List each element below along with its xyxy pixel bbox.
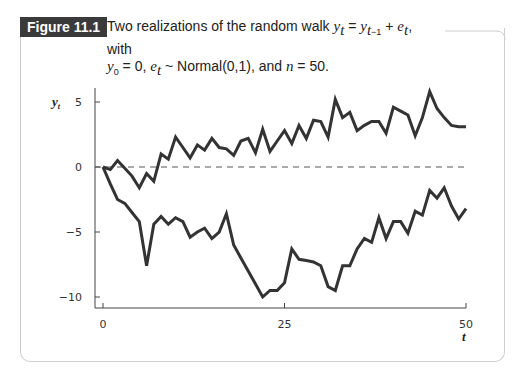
line-chart: −10−50502550 yt t <box>0 0 527 384</box>
series-upper-line <box>103 92 466 188</box>
series-lower-line <box>103 167 466 297</box>
y-tick-label: 0 <box>75 161 82 174</box>
y-tick-label: 5 <box>75 96 82 109</box>
frame-corner <box>496 31 505 40</box>
x-tick-label: 0 <box>100 318 107 331</box>
x-axis-title: t <box>462 329 466 344</box>
x-tick-label: 25 <box>278 318 292 331</box>
y-tick-label: −5 <box>66 226 82 239</box>
y-tick-label: −10 <box>59 291 82 304</box>
y-axis-title: yt <box>50 94 61 111</box>
